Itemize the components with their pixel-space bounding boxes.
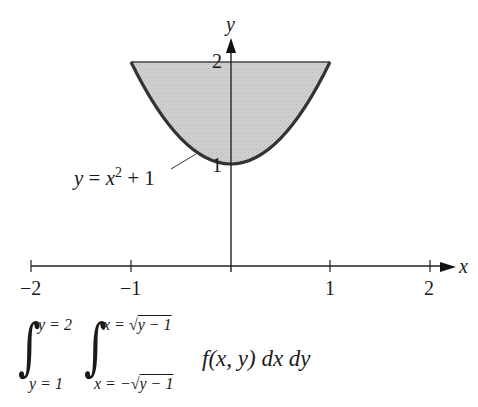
curve-exponent: 2 — [115, 165, 122, 180]
inner-lower-limit: x = −√y − 1 — [94, 376, 173, 392]
outer-lower-limit: y = 1 — [29, 376, 63, 392]
x-tick-label-2: 2 — [424, 278, 434, 298]
y-tick-label-2: 2 — [212, 51, 222, 71]
inner-upper-limit: x = √y − 1 — [103, 317, 172, 333]
outer-upper-limit: y = 2 — [38, 317, 72, 333]
integrand: f(x, y) dx dy — [202, 347, 311, 370]
x-axis-arrow-icon — [440, 262, 456, 272]
x-axis-label: x — [459, 256, 468, 276]
label-leader-line — [171, 154, 196, 169]
inner-lower-radicand: y − 1 — [139, 375, 173, 392]
sqrt-icon: √ — [129, 316, 138, 333]
inner-lower-prefix: x = − — [94, 375, 131, 392]
curve-var: x — [106, 166, 115, 190]
y-axis-label: y — [226, 14, 235, 34]
x-tick-label-neg1: −1 — [120, 278, 141, 298]
inner-upper-prefix: x = — [103, 316, 129, 333]
y-axis-arrow-icon — [226, 38, 236, 53]
x-tick-label-1: 1 — [325, 278, 335, 298]
curve-equation-label: y = x2 + 1 — [74, 163, 155, 188]
y-tick-label-1: 1 — [212, 155, 222, 175]
region-diagram: y x 2 1 −2 −1 1 2 y = x2 + 1 ∫ y = 2 y =… — [0, 0, 478, 407]
curve-eq: = — [83, 166, 105, 190]
curve-lhs: y — [74, 166, 83, 190]
inner-upper-radicand: y − 1 — [138, 316, 172, 333]
curve-rest: + 1 — [122, 166, 155, 190]
plot-svg — [0, 0, 478, 300]
double-integral: ∫ y = 2 y = 1 ∫ x = √y − 1 x = −√y − 1 f… — [16, 308, 416, 403]
x-tick-label-neg2: −2 — [20, 278, 41, 298]
